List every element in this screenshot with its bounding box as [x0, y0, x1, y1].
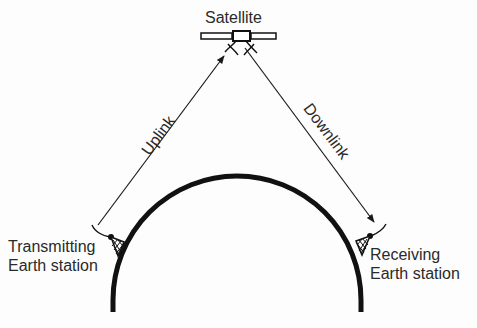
downlink-arrow — [245, 48, 374, 222]
receiving-label-line1: Receiving — [370, 245, 460, 264]
transmitting-station-label: Transmitting Earth station — [8, 237, 98, 275]
satellite-icon — [201, 31, 276, 55]
receiving-station-label: Receiving Earth station — [370, 245, 460, 283]
satellite-label: Satellite — [205, 8, 262, 27]
transmitting-label-line1: Transmitting — [8, 237, 98, 256]
earth-arc — [113, 176, 361, 312]
receiving-label-line2: Earth station — [370, 264, 460, 283]
transmitting-label-line2: Earth station — [8, 256, 98, 275]
